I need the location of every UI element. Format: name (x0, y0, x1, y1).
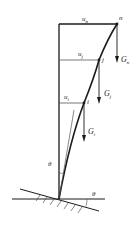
tilt-reference-line (59, 110, 74, 199)
node-label-j: j (101, 56, 104, 64)
displacement-label-n: un (82, 15, 89, 24)
tilt-angle-label: θ (48, 160, 52, 168)
deflected-shape-curve (59, 24, 117, 199)
node-label-n: n (119, 14, 123, 22)
ground-angle-label: θ (92, 190, 96, 198)
load-label-n: Gn (121, 55, 130, 65)
displacement-label-i: ui (64, 93, 70, 102)
arrowhead-down-icon (82, 135, 86, 142)
ground-angle-arc (86, 199, 87, 207)
load-label-j: Gj (104, 89, 112, 99)
arrowhead-down-icon (97, 97, 101, 104)
load-label-i: Gi (88, 127, 96, 137)
structure-diagram: un uj ui n j i Gn Gj Gi θ θ (0, 0, 139, 229)
displacement-label-j: uj (78, 50, 84, 59)
arrowhead-down-icon (115, 56, 119, 63)
node-label-i: i (87, 98, 89, 106)
